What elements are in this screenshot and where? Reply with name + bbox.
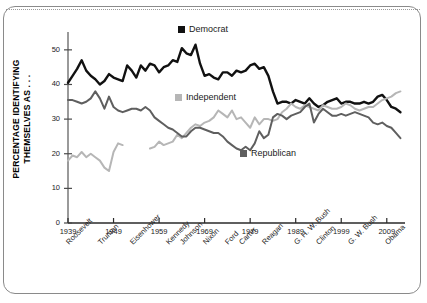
legend-item-republican: Republican bbox=[240, 148, 296, 158]
legend-item-democrat: Democrat bbox=[178, 24, 228, 34]
y-tick-label: 0 bbox=[44, 218, 60, 227]
legend-swatch-republican bbox=[240, 150, 247, 157]
y-tick-label: 50 bbox=[44, 45, 60, 54]
legend-label-independent: Independent bbox=[186, 92, 236, 102]
legend-item-independent: Independent bbox=[175, 92, 236, 102]
legend-label-democrat: Democrat bbox=[189, 24, 228, 34]
legend-swatch-independent bbox=[175, 94, 182, 101]
y-tick-label: 30 bbox=[44, 114, 60, 123]
y-tick-label: 20 bbox=[44, 149, 60, 158]
line-chart-plot bbox=[0, 0, 427, 303]
y-tick-label: 10 bbox=[44, 183, 60, 192]
legend-swatch-democrat bbox=[178, 26, 185, 33]
legend-label-republican: Republican bbox=[251, 148, 296, 158]
chart-figure: PERCENTAGE IDENTIFYING THEMSELVES AS . .… bbox=[0, 0, 427, 303]
y-tick-label: 40 bbox=[44, 79, 60, 88]
